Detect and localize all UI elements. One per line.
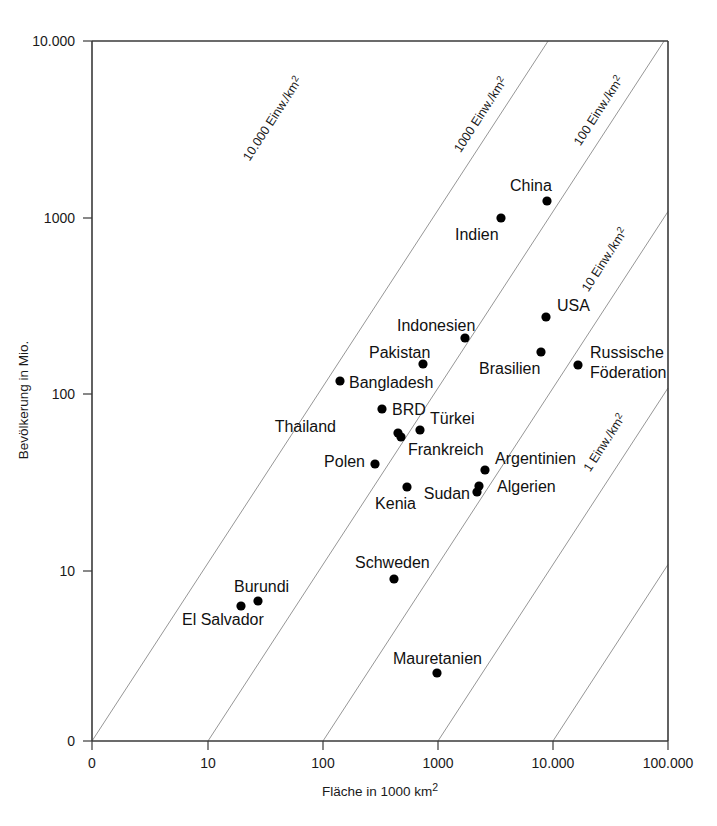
data-point-label: Mauretanien xyxy=(393,650,482,667)
data-point-marker[interactable] xyxy=(402,482,411,491)
data-point-label: USA xyxy=(557,297,590,314)
data-point-label: Thailand xyxy=(275,418,336,435)
x-tick-label: 1000 xyxy=(422,755,453,771)
data-point-label: El Salvador xyxy=(182,611,264,628)
data-points: ChinaIndienUSABrasilienRussischeFöderati… xyxy=(182,177,667,678)
data-point-label: Brasilien xyxy=(479,360,540,377)
x-tick-label: 10.000 xyxy=(532,755,575,771)
data-point-marker[interactable] xyxy=(460,333,469,342)
data-point-label: Kenia xyxy=(375,495,416,512)
y-tick-label: 0 xyxy=(67,733,75,749)
data-point-marker[interactable] xyxy=(542,196,551,205)
x-tick-label: 100.000 xyxy=(643,755,694,771)
y-tick-label: 10.000 xyxy=(32,33,75,49)
data-point-marker[interactable] xyxy=(541,312,550,321)
data-point-label: Argentinien xyxy=(495,450,576,467)
data-point-label: Bangladesh xyxy=(349,374,434,391)
y-tick-label: 10 xyxy=(59,563,75,579)
y-tick-label: 1000 xyxy=(44,210,75,226)
data-point-marker[interactable] xyxy=(432,668,441,677)
y-axis-ticks: 10.0001000100100 xyxy=(32,33,92,749)
y-axis-title: Bevölkerung in Mio. xyxy=(16,341,31,460)
chart-canvas: 10.0001000100100 010100100010.000100.000… xyxy=(0,0,717,826)
iso-1000 xyxy=(208,41,664,741)
data-point-marker[interactable] xyxy=(335,376,344,385)
data-point-label: Algerien xyxy=(497,478,556,495)
iso-line-label: 1000 Einw./km2 xyxy=(450,74,511,155)
iso-line-label: 10 Einw./km2 xyxy=(577,224,630,294)
data-point-marker[interactable] xyxy=(472,487,481,496)
data-point-marker[interactable] xyxy=(396,432,405,441)
data-point-marker[interactable] xyxy=(573,360,582,369)
iso-10000 xyxy=(92,41,548,741)
x-tick-label: 10 xyxy=(200,755,216,771)
data-point-marker[interactable] xyxy=(389,574,398,583)
x-axis-title: Fläche in 1000 km2 xyxy=(322,781,438,799)
population-area-scatter-figure: 10.0001000100100 010100100010.000100.000… xyxy=(0,0,717,826)
data-point-label: Indonesien xyxy=(397,317,475,334)
data-point-marker[interactable] xyxy=(253,596,262,605)
iso-1 xyxy=(553,565,668,741)
iso-line-label: 1 Einw./km2 xyxy=(579,410,628,474)
data-point-label: Sudan xyxy=(424,485,470,502)
iso-100 xyxy=(323,212,668,741)
data-point-marker[interactable] xyxy=(480,465,489,474)
x-tick-label: 100 xyxy=(311,755,335,771)
y-tick-label: 100 xyxy=(52,386,76,402)
data-point-marker[interactable] xyxy=(236,601,245,610)
data-point-label: Föderation xyxy=(590,364,667,381)
data-point-label: China xyxy=(510,177,552,194)
data-point-label: Pakistan xyxy=(369,344,430,361)
data-point-marker[interactable] xyxy=(415,425,424,434)
iso-line-label: 100 Einw./km2 xyxy=(569,73,626,149)
data-point-marker[interactable] xyxy=(496,213,505,222)
data-point-label: Türkei xyxy=(430,410,474,427)
data-point-marker[interactable] xyxy=(377,404,386,413)
data-point-marker[interactable] xyxy=(536,347,545,356)
data-point-marker[interactable] xyxy=(370,459,379,468)
data-point-label: Polen xyxy=(324,453,365,470)
data-point-label: Frankreich xyxy=(408,441,484,458)
data-point-label: Indien xyxy=(455,226,499,243)
iso-line-label: 10.000 Einw./km2 xyxy=(239,73,305,163)
data-point-label: BRD xyxy=(392,401,426,418)
data-point-label: Schweden xyxy=(355,554,430,571)
x-tick-label: 0 xyxy=(88,755,96,771)
data-point-label: Russische xyxy=(590,344,664,361)
data-point-label: Burundi xyxy=(234,578,289,595)
x-axis-ticks: 010100100010.000100.000 xyxy=(88,741,693,771)
